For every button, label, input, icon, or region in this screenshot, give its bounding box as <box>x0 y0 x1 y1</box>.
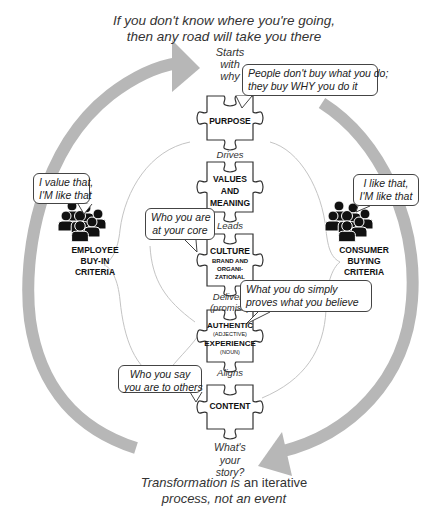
person-head <box>328 211 338 221</box>
bubble-culture: Who you are at your core <box>145 208 215 240</box>
footer-emphasis: Transformation is <box>141 475 240 490</box>
puzzle-sublabel-line: (NOUN) <box>196 349 264 356</box>
footer-caption: Transformation is an iterative process, … <box>0 475 448 507</box>
group-label-line: BUYING <box>327 256 401 267</box>
bubble-line: I'M like that <box>39 189 84 202</box>
footer-line1-rest: an iterative <box>240 475 307 490</box>
employee-group-label: EMPLOYEE BUY-IN CRITERIA <box>60 245 130 278</box>
connector-aligns: Aligns <box>205 367 255 378</box>
bubble-line: they buy WHY you do it <box>248 80 372 93</box>
person-body <box>72 231 89 242</box>
header-quote-line2: then any road will take you there <box>0 29 448 45</box>
bubble-experience: What you do simply proves what you belie… <box>240 280 372 312</box>
header-quote: If you don't know where you're going, th… <box>0 13 448 45</box>
bubble-line: I value that, <box>39 176 84 189</box>
culture-to-bubble-line <box>150 246 195 322</box>
connector-drives: Drives <box>205 149 255 160</box>
bubble-employee: I value that, I'M like that <box>33 173 90 204</box>
puzzle-sublabel-line: (ADJECTIVE) <box>196 331 264 338</box>
person-head <box>342 221 353 232</box>
puzzle-piece-icon <box>197 385 263 439</box>
puzzle-label-culture: CULTURE BRAND AND ORGANI- ZATIONAL <box>200 246 260 281</box>
puzzle-label-line: AUTHENTIC <box>196 320 264 331</box>
cycle-arrow-top-head <box>172 40 200 92</box>
bubble-line: What you do simply <box>246 283 366 296</box>
puzzle-label-line: CULTURE <box>200 246 260 257</box>
person-head <box>75 221 86 232</box>
puzzle-label-line: VALUES <box>200 173 260 185</box>
bubble-purpose: People don't buy what you do; they buy W… <box>242 64 378 96</box>
bubble-line: Who you are <box>151 211 209 224</box>
footer-line1: Transformation is an iterative <box>0 475 448 491</box>
bubble-line: I like that, <box>359 177 413 190</box>
bubble-line: I'M like that <box>359 190 413 203</box>
puzzle-sublabel-line: BRAND AND <box>200 257 260 265</box>
bubble-line: you are to others <box>124 381 196 394</box>
person-head <box>87 217 97 227</box>
group-label-line: EMPLOYEE <box>60 245 130 256</box>
bubble-tail-culture <box>185 240 197 252</box>
puzzle-label-purpose: PURPOSE <box>200 116 260 127</box>
end-label-line: your <box>205 454 255 467</box>
person-head <box>61 211 71 221</box>
bubble-content: Who you say you are to others <box>118 365 202 393</box>
right-brace-line <box>270 142 340 262</box>
person-body <box>339 231 356 242</box>
footer-line2: process, not an event <box>0 491 448 507</box>
diagram: If you don't know where you're going, th… <box>0 0 448 512</box>
start-label-line: Starts <box>205 46 255 58</box>
cycle-arrow-bottom-head <box>258 432 292 476</box>
puzzle-label-values: VALUES AND MEANING <box>200 173 260 209</box>
header-quote-line1: If you don't know where you're going, <box>0 13 448 29</box>
bubble-line: proves what you believe <box>246 296 366 309</box>
bubble-line: Who you say <box>124 368 196 381</box>
end-label-line: What's <box>205 441 255 454</box>
puzzle-sublabel-line: ORGANI- <box>200 265 260 273</box>
puzzle-label-content: CONTENT <box>200 401 260 412</box>
group-label-line: CONSUMER <box>327 245 401 256</box>
person-head <box>334 201 344 211</box>
consumer-group-label: CONSUMER BUYING CRITERIA <box>327 245 401 278</box>
person-head <box>354 217 364 227</box>
bubble-line: at your core <box>151 224 209 237</box>
group-label-line: BUY-IN <box>60 256 130 267</box>
bubble-consumer: I like that, I'M like that <box>353 174 419 206</box>
puzzle-label-experience: AUTHENTIC (ADJECTIVE) EXPERIENCE (NOUN) <box>196 320 264 356</box>
bubble-line: People don't buy what you do; <box>248 67 372 80</box>
person-head <box>342 211 353 222</box>
puzzle-label-line: AND <box>200 185 260 197</box>
group-label-line: CRITERIA <box>60 267 130 278</box>
end-label: What's your story? <box>205 441 255 479</box>
group-label-line: CRITERIA <box>327 267 401 278</box>
left-brace-line-lower <box>104 265 160 380</box>
puzzle-label-line: EXPERIENCE <box>196 338 264 349</box>
